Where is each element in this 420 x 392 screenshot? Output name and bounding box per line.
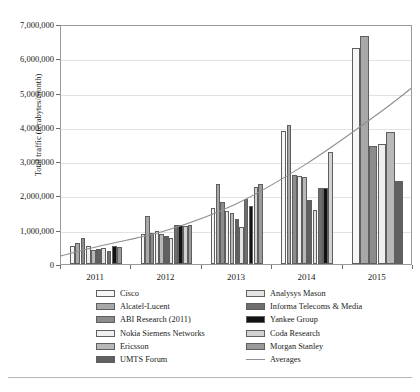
bar [292,175,297,264]
bar [225,211,229,264]
bar [211,208,215,264]
legend-item: UMTS Forum [96,355,167,364]
x-axis-tick-mark [60,265,61,269]
legend-color-swatch [246,330,265,337]
legend-item: Nokia Siemens Networks [96,329,205,338]
bar [369,146,377,264]
bar [249,206,253,264]
bar [302,177,307,264]
bar [307,200,312,264]
y-axis-tick-label: 1,000,000 [0,227,54,236]
legend-color-swatch [96,343,115,350]
x-axis-tick-label: 2012 [136,272,196,282]
legend-color-swatch [96,316,115,323]
legend-label: Informa Telecoms & Media [270,302,362,311]
y-axis-tick-label: 5,000,000 [0,90,54,99]
bar [386,132,394,264]
bar [178,225,182,264]
legend-line-swatch [246,356,265,363]
bar [164,236,168,264]
legend-color-swatch [96,290,115,297]
x-axis-tick-mark [201,265,202,269]
bar [86,246,91,264]
bar [287,125,292,264]
y-axis-tick-mark [56,25,60,26]
bar [117,247,122,264]
bar [112,246,117,264]
chart-legend: CiscoAlcatel-LucentABI Research (2011)No… [96,289,396,367]
legend-item: Coda Research [246,329,320,338]
x-axis-tick-mark [342,265,343,269]
y-axis-tick-label: 4,000,000 [0,124,54,133]
bar [254,187,258,264]
bar [141,234,145,264]
bar [145,216,149,264]
legend-item: Analysys Mason [246,289,326,298]
bar [75,243,80,264]
legend-item: Yankee Group [246,315,318,324]
bar [328,152,333,264]
bar [239,227,243,264]
legend-item: Informa Telecoms & Media [246,302,362,311]
x-axis-tick-label: 2011 [65,272,125,282]
y-axis-tick-label: 6,000,000 [0,55,54,64]
legend-color-swatch [96,303,115,310]
y-axis-tick-label: 3,000,000 [0,158,54,167]
bottom-divider [8,377,412,378]
legend-color-swatch [246,303,265,310]
bar [323,188,328,264]
legend-color-swatch [246,290,265,297]
bar [169,238,173,264]
legend-item: Ericsson [96,342,149,351]
bar [220,202,224,264]
legend-label: Analysys Mason [270,289,326,298]
y-axis-tick-mark [56,162,60,163]
legend-label: Morgan Stanley [270,342,323,351]
bar [174,225,178,264]
bar [281,131,286,264]
bar [101,248,106,264]
legend-label: Alcatel-Lucent [120,302,170,311]
bar [188,225,192,264]
bar [155,231,159,264]
legend-label: Averages [270,355,301,364]
bar [96,249,101,264]
legend-label: ABI Research (2011) [120,315,191,324]
bar [378,144,386,264]
y-axis-title: Total traffic (terabytes/month) [33,25,43,225]
plot-area [60,25,412,265]
bar [395,181,403,264]
bar [360,36,368,264]
x-axis-tick-mark [130,265,131,269]
x-axis-tick-mark [271,265,272,269]
bar [318,188,323,264]
bar [352,48,360,264]
bar [258,184,262,264]
bar [216,184,220,264]
bar [107,251,112,264]
bar [183,226,187,264]
legend-item: Morgan Stanley [246,342,323,351]
bar [159,234,163,264]
legend-item: ABI Research (2011) [96,315,191,324]
y-axis-tick-label: 2,000,000 [0,192,54,201]
x-axis-tick-label: 2014 [276,272,336,282]
legend-color-swatch [246,343,265,350]
legend-color-swatch [96,330,115,337]
legend-label: Coda Research [270,329,320,338]
legend-label: UMTS Forum [120,355,167,364]
bar [244,199,248,264]
y-axis-tick-mark [56,196,60,197]
x-axis-tick-label: 2013 [206,272,266,282]
legend-item: Averages [246,355,301,364]
bar [297,176,302,264]
legend-label: Yankee Group [270,315,318,324]
legend-label: Ericsson [120,342,149,351]
bar [150,233,154,264]
bar [81,238,86,264]
legend-label: Nokia Siemens Networks [120,329,205,338]
legend-label: Cisco [120,289,139,298]
y-axis-tick-label: 0 [0,261,54,270]
y-axis-tick-label: 7,000,000 [0,21,54,30]
y-axis-tick-mark [56,94,60,95]
